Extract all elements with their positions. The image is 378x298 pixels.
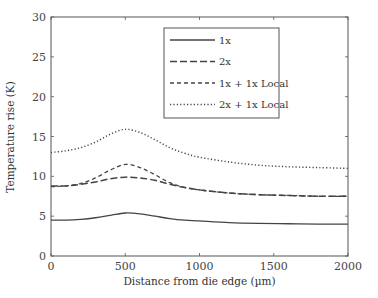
x-tick-label: 2000 (334, 260, 362, 273)
legend-label: 2x + 1x Local (219, 99, 288, 110)
series-lines (51, 129, 348, 224)
y-tick-label: 30 (32, 11, 46, 24)
line-chart: 0500100015002000051015202530 1x2x1x + 1x… (0, 0, 378, 298)
y-tick-label: 20 (32, 91, 46, 104)
y-axis-label: Temperature rise (K) (4, 81, 16, 192)
legend-label: 2x (219, 56, 231, 67)
y-tick-label: 25 (32, 51, 46, 64)
y-tick-label: 10 (32, 170, 46, 183)
series-line-1x-1x-local (51, 164, 348, 196)
legend-label: 1x (219, 35, 231, 46)
legend: 1x2x1x + 1x Local2x + 1x Local (164, 28, 288, 118)
y-tick-label: 15 (32, 131, 46, 144)
legend-label: 1x + 1x Local (219, 78, 288, 89)
x-tick-label: 500 (115, 260, 136, 273)
x-tick-label: 0 (48, 260, 55, 273)
series-line-1x (51, 213, 348, 224)
series-line-2x-1x-local (51, 129, 348, 168)
series-line-2x (51, 177, 348, 196)
y-tick-label: 5 (39, 210, 46, 223)
y-tick-label: 0 (39, 250, 46, 263)
x-tick-label: 1000 (186, 260, 214, 273)
x-axis-label: Distance from die edge (µm) (123, 275, 275, 287)
x-tick-label: 1500 (260, 260, 288, 273)
